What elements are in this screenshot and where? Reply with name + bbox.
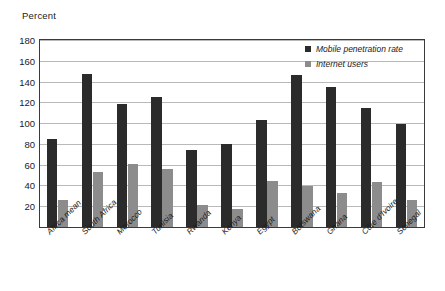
y-tick-label: 120 xyxy=(5,97,35,108)
legend-item: Internet users xyxy=(305,57,403,70)
bar-group xyxy=(180,40,215,227)
y-tick-label: 160 xyxy=(5,55,35,66)
chart-legend: Mobile penetration rateInternet users xyxy=(305,42,403,72)
legend-swatch-icon xyxy=(305,46,311,52)
bar xyxy=(291,75,302,227)
legend-label: Internet users xyxy=(316,59,368,69)
y-tick-label: 20 xyxy=(5,201,35,212)
bar xyxy=(186,150,197,227)
x-axis-labels: Africa meanSouth AfricaMoroccoTunisiaRwa… xyxy=(40,230,424,291)
bar xyxy=(151,97,162,227)
legend-swatch-icon xyxy=(305,61,311,67)
bar xyxy=(221,144,232,227)
bar xyxy=(326,87,337,227)
bar-group xyxy=(75,40,110,227)
y-axis-title: Percent xyxy=(22,10,56,21)
y-tick-label: 140 xyxy=(5,76,35,87)
legend-label: Mobile penetration rate xyxy=(316,44,403,54)
bar-group xyxy=(249,40,284,227)
bar-chart: Percent 20406080100120140160180 Africa m… xyxy=(0,0,445,291)
y-tick-label: 80 xyxy=(5,138,35,149)
y-tick-label: 100 xyxy=(5,118,35,129)
bar xyxy=(396,124,407,227)
bar xyxy=(47,139,58,227)
bar xyxy=(361,108,372,227)
bar-group xyxy=(110,40,145,227)
legend-item: Mobile penetration rate xyxy=(305,42,403,55)
y-tick-label: 180 xyxy=(5,35,35,46)
bar-group xyxy=(145,40,180,227)
y-tick-label: 40 xyxy=(5,180,35,191)
bar xyxy=(256,120,267,227)
y-axis-ticks: 20406080100120140160180 xyxy=(0,39,35,228)
bar xyxy=(117,104,128,227)
bar-group xyxy=(215,40,250,227)
bar-group xyxy=(40,40,75,227)
y-tick-label: 60 xyxy=(5,159,35,170)
